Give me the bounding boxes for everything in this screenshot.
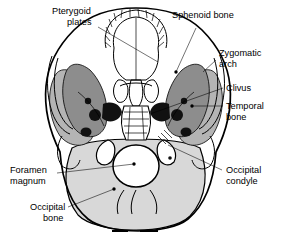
- foramen-magnum-region: [113, 145, 159, 187]
- choana-right: [144, 80, 159, 103]
- foramen-lacerum-right: [150, 102, 170, 121]
- vomer: [129, 80, 142, 106]
- label-clivus-line1: Clivus: [226, 83, 251, 93]
- label-occipital-bone: Occipital bone: [30, 202, 68, 223]
- label-occipital-condyle: Occipital condyle: [226, 165, 264, 186]
- marker-temporal-bone: [190, 104, 193, 107]
- label-occipital-bone-line1: Occipital: [30, 202, 65, 212]
- label-sphenoid-bone-line1: Sphenoid bone: [172, 10, 234, 20]
- marker-foramen-magnum: [132, 162, 135, 165]
- label-sphenoid-bone: Sphenoid bone: [172, 10, 234, 20]
- leader-pterygoid-plates: [98, 27, 158, 62]
- label-pterygoid-plates: Pterygoid plates: [52, 6, 93, 27]
- sphenoid-body-detail: [120, 83, 152, 86]
- label-zygomatic-arch-line1: Zygomatic: [219, 48, 262, 58]
- label-pterygoid-plates-line1: Pterygoid: [52, 6, 91, 16]
- clivus-region: [122, 106, 151, 140]
- marker-sphenoid-bone: [174, 70, 177, 73]
- carotid-canal-left: [89, 109, 101, 121]
- label-zygomatic-arch-line2: arch: [219, 59, 237, 69]
- condyle-canal-right: [168, 156, 172, 160]
- label-occipital-condyle-line1: Occipital: [226, 165, 261, 175]
- label-foramen-magnum-line1: Foramen: [10, 165, 47, 175]
- foramen-lacerum-left: [102, 102, 122, 121]
- carotid-canal-right: [171, 109, 183, 121]
- label-zygomatic-arch: Zygomatic arch: [219, 48, 264, 69]
- label-pterygoid-plates-line2: plates: [67, 17, 92, 27]
- skull-illustration: [46, 8, 231, 231]
- label-temporal-bone-line2: bone: [226, 112, 246, 122]
- figure-canvas: Pterygoid plates Sphenoid bone Zygomatic…: [0, 0, 281, 246]
- jugular-foramen-left: [81, 128, 92, 137]
- label-occipital-bone-line2: bone: [43, 213, 63, 223]
- label-foramen-magnum: Foramen magnum: [10, 165, 49, 186]
- marker-occipital-bone: [112, 187, 115, 190]
- label-temporal-bone-line1: Temporal: [226, 101, 264, 111]
- label-temporal-bone: Temporal bone: [226, 101, 266, 122]
- label-foramen-magnum-line2: magnum: [10, 176, 46, 186]
- choana-left: [114, 80, 129, 103]
- label-clivus: Clivus: [226, 83, 251, 93]
- jugular-foramen-right: [181, 128, 192, 137]
- label-occipital-condyle-line2: condyle: [226, 176, 258, 186]
